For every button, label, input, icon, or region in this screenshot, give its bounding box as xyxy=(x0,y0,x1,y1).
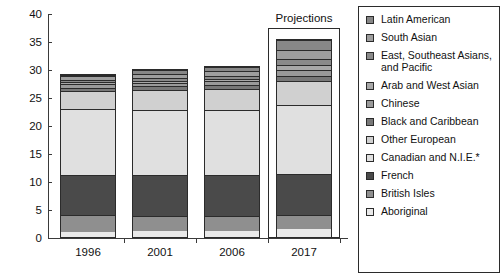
legend-swatch-icon xyxy=(366,82,374,90)
bar-2006[interactable] xyxy=(204,66,260,238)
y-tick-mark xyxy=(48,210,52,211)
y-tick-mark xyxy=(48,14,52,15)
legend-swatch-icon xyxy=(366,52,374,60)
legend-swatch-icon xyxy=(366,16,374,24)
legend-swatch-icon xyxy=(366,208,374,216)
legend-item-label: French xyxy=(381,170,414,182)
y-tick-label: 20 xyxy=(14,120,42,132)
legend-item[interactable]: East, Southeast Asians, and Pacific xyxy=(366,50,493,73)
legend-items: Latin AmericanSouth AsianEast, Southeast… xyxy=(366,14,493,217)
legend-item-label: British Isles xyxy=(381,188,435,200)
x-axis-line xyxy=(48,238,348,239)
projections-label: Projections xyxy=(262,12,346,24)
y-tick-label: 35 xyxy=(14,36,42,48)
bar-segment xyxy=(205,216,259,231)
y-tick-mark xyxy=(48,182,52,183)
legend-swatch-icon xyxy=(366,34,374,42)
projections-box xyxy=(268,28,340,238)
legend-item-label: Canadian and N.I.E.* xyxy=(381,152,480,164)
legend-item-label: Arab and West Asian xyxy=(381,80,479,92)
bar-segment xyxy=(133,110,187,175)
y-tick-label: 25 xyxy=(14,92,42,104)
x-tick-mark xyxy=(196,238,197,243)
legend-item[interactable]: Other European xyxy=(366,134,493,146)
x-tick-mark xyxy=(268,238,269,243)
bar-segment xyxy=(133,90,187,110)
legend-item-label: Aboriginal xyxy=(381,206,428,218)
y-tick-label: 5 xyxy=(14,204,42,216)
y-tick-mark xyxy=(48,238,52,239)
legend-item[interactable]: Aboriginal xyxy=(366,206,493,218)
bar-segment xyxy=(133,231,187,237)
y-tick-label: 10 xyxy=(14,176,42,188)
bar-segment xyxy=(61,91,115,109)
legend-item[interactable]: South Asian xyxy=(366,32,493,44)
y-tick-mark xyxy=(48,126,52,127)
legend-item[interactable]: British Isles xyxy=(366,188,493,200)
x-tick-mark xyxy=(124,238,125,243)
legend-item[interactable]: French xyxy=(366,170,493,182)
x-axis-label-2017: 2017 xyxy=(274,246,334,258)
bar-segment xyxy=(133,216,187,231)
legend-item-label: Latin American xyxy=(381,14,450,26)
legend-swatch-icon xyxy=(366,172,374,180)
legend-item-label: Other European xyxy=(381,134,456,146)
y-tick-label: 30 xyxy=(14,64,42,76)
x-axis-label-2006: 2006 xyxy=(202,246,262,258)
y-tick-label: 40 xyxy=(14,8,42,20)
bar-segment xyxy=(61,109,115,175)
legend: Latin AmericanSouth AsianEast, Southeast… xyxy=(358,6,500,273)
legend-swatch-icon xyxy=(366,100,374,108)
bar-segment xyxy=(205,231,259,237)
bar-1996[interactable] xyxy=(60,74,116,238)
x-tick-mark xyxy=(340,238,341,243)
bar-segment xyxy=(61,232,115,237)
x-axis-label-2001: 2001 xyxy=(130,246,190,258)
legend-item[interactable]: Chinese xyxy=(366,98,493,110)
legend-item[interactable]: Canadian and N.I.E.* xyxy=(366,152,493,164)
bar-segment xyxy=(61,215,115,232)
y-tick-mark xyxy=(48,98,52,99)
bar-segment xyxy=(205,89,259,110)
y-tick-mark xyxy=(48,154,52,155)
legend-item[interactable]: Black and Caribbean xyxy=(366,116,493,128)
legend-item-label: Chinese xyxy=(381,98,420,110)
legend-swatch-icon xyxy=(366,190,374,198)
plot-area: 0510152025303540 1996200120062017 Projec… xyxy=(0,0,352,279)
bar-2001[interactable] xyxy=(132,69,188,238)
legend-item-label: East, Southeast Asians, and Pacific xyxy=(381,50,493,73)
legend-item[interactable]: Latin American xyxy=(366,14,493,26)
y-tick-mark xyxy=(48,70,52,71)
y-tick-mark xyxy=(48,42,52,43)
bar-segment xyxy=(205,110,259,175)
legend-swatch-icon xyxy=(366,154,374,162)
legend-swatch-icon xyxy=(366,136,374,144)
chart-root: 0510152025303540 1996200120062017 Projec… xyxy=(0,0,504,279)
legend-swatch-icon xyxy=(366,118,374,126)
bar-segment xyxy=(205,175,259,216)
legend-item-label: Black and Caribbean xyxy=(381,116,478,128)
legend-item[interactable]: Arab and West Asian xyxy=(366,80,493,92)
y-tick-label: 15 xyxy=(14,148,42,160)
bar-segment xyxy=(133,175,187,216)
y-tick-label: 0 xyxy=(14,232,42,244)
bar-segment xyxy=(61,175,115,215)
x-axis-label-1996: 1996 xyxy=(58,246,118,258)
legend-item-label: South Asian xyxy=(381,32,437,44)
